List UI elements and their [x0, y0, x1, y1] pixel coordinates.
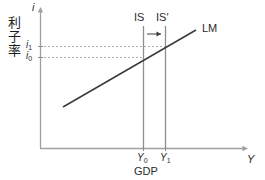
x-tick-label-y1: Y1 [160, 153, 171, 163]
y-axis-caption-char-1: 利 [6, 16, 22, 30]
y-axis-arrowhead [38, 7, 43, 13]
y-axis-caption-char-2: 子 [6, 30, 22, 44]
y-axis-caption-char-3: 率 [6, 44, 22, 58]
rightward-shift-arrow [147, 32, 161, 37]
curve-label-lm: LM [202, 23, 217, 34]
x-axis-caption: GDP [134, 166, 158, 177]
y-axis-symbol: i [32, 2, 34, 13]
x-tick-label-y1-sub: 1 [167, 157, 171, 164]
y-axis-caption: 利 子 率 [6, 16, 22, 58]
diagram-canvas [0, 0, 265, 180]
curve-label-is: IS [134, 12, 144, 23]
y-tick-label-i1: i1 [26, 40, 32, 50]
curve-lm [63, 30, 196, 107]
x-axis-arrowhead [243, 146, 249, 151]
x-axis-symbol: Y [247, 154, 254, 165]
x-tick-label-y1-base: Y [160, 152, 167, 163]
x-tick-label-y0-base: Y [137, 152, 144, 163]
y-tick-label-i1-sub: 1 [28, 44, 32, 51]
y-tick-label-i0: i0 [26, 51, 32, 61]
x-tick-label-y0: Y0 [137, 153, 148, 163]
x-tick-label-y0-sub: 0 [144, 157, 148, 164]
y-tick-label-i0-sub: 0 [28, 55, 32, 62]
curve-label-is-prime: IS′ [156, 12, 168, 23]
is-lm-figure: i 利 子 率 i1 i0 IS IS′ LM Y0 Y1 GDP Y [0, 0, 265, 180]
